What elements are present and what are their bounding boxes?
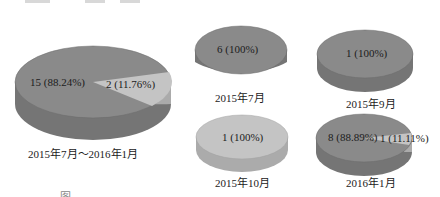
pie-charts-figure: 15 (88.24%) 2 (11.76%) 2015年7月～2016年1月 6… — [0, 0, 440, 197]
pie-chart-2016-01: 8 (88.89%) 1 (11.11%) 2016年1月 — [316, 114, 429, 189]
chart-title: 2016年1月 — [346, 176, 396, 189]
pie-chart-2015-07: 6 (100%) 2015年7月 — [195, 26, 287, 104]
slice-label-light: 2 (11.76%) — [106, 78, 155, 91]
figure-caption-cropped: 图…… — [60, 190, 440, 197]
chart-title: 2015年7月～2016年1月 — [28, 147, 138, 160]
slice-label: 1 (100%) — [346, 47, 388, 60]
slice-label: 1 (100%) — [222, 131, 264, 144]
slice-label-dark: 8 (88.89%) — [328, 131, 378, 144]
slice-label-dark: 15 (88.24%) — [30, 76, 85, 89]
figure-caption: 图…… — [60, 190, 440, 197]
chart-title: 2015年10月 — [215, 176, 270, 189]
slice-label: 6 (100%) — [217, 43, 259, 56]
pie-chart-overall: 15 (88.24%) 2 (11.76%) 2015年7月～2016年1月 — [15, 46, 172, 160]
chart-title: 2015年9月 — [346, 97, 396, 110]
chart-title: 2015年7月 — [215, 91, 265, 104]
pie-chart-2015-09: 1 (100%) 2015年9月 — [317, 30, 413, 110]
pie-chart-2015-10: 1 (100%) 2015年10月 — [196, 115, 288, 189]
slice-label-light: 1 (11.11%) — [380, 132, 429, 145]
